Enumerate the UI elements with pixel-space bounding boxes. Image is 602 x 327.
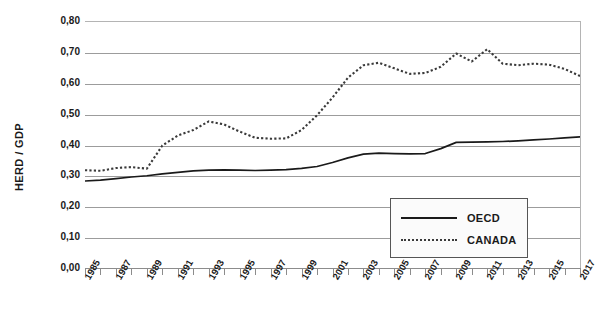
x-axis-tick bbox=[100, 269, 101, 275]
x-axis-tick bbox=[379, 269, 380, 275]
x-axis-tick bbox=[255, 269, 256, 275]
x-axis-tick bbox=[565, 269, 566, 275]
y-axis-tick-label: 0,80 bbox=[40, 16, 80, 26]
x-axis-tick bbox=[534, 269, 535, 275]
x-axis-tick bbox=[162, 269, 163, 275]
legend-item-canada: CANADA bbox=[401, 231, 516, 249]
y-axis-tick-label: 0,10 bbox=[40, 232, 80, 242]
legend-label-canada: CANADA bbox=[467, 234, 516, 246]
legend-swatch-solid-icon bbox=[401, 212, 457, 224]
x-axis-tick bbox=[503, 269, 504, 275]
y-axis-tick-label: 0,60 bbox=[40, 78, 80, 88]
y-axis-tick-label: 0,40 bbox=[40, 140, 80, 150]
legend-label-oecd: OECD bbox=[467, 212, 500, 224]
x-axis-tick bbox=[348, 269, 349, 275]
y-axis-tick-label: 0,50 bbox=[40, 109, 80, 119]
y-axis-tick-label: 0,70 bbox=[40, 47, 80, 57]
legend-box: OECD CANADA bbox=[390, 198, 528, 258]
x-axis-tick bbox=[472, 269, 473, 275]
x-axis-tick bbox=[410, 269, 411, 275]
x-axis-tick bbox=[286, 269, 287, 275]
x-axis-tick bbox=[224, 269, 225, 275]
legend-swatch-dotted-icon bbox=[401, 234, 457, 246]
x-axis-tick bbox=[317, 269, 318, 275]
herd-gdp-line-chart: HERD / GDP 0,000,100,200,300,400,500,600… bbox=[0, 0, 602, 327]
y-axis-title-text: HERD / GDP bbox=[13, 123, 25, 191]
y-axis-tick-labels: 0,000,100,200,300,400,500,600,700,80 bbox=[38, 0, 80, 327]
x-axis-tick bbox=[441, 269, 442, 275]
y-axis-title: HERD / GDP bbox=[2, 92, 36, 222]
y-axis-tick-label: 0,30 bbox=[40, 170, 80, 180]
x-axis-tick-labels: 1985198719891991199319951997199920012003… bbox=[85, 276, 595, 324]
x-axis-tick bbox=[131, 269, 132, 275]
y-axis-tick-label: 0,20 bbox=[40, 201, 80, 211]
y-axis-tick-label: 0,00 bbox=[40, 263, 80, 273]
legend-item-oecd: OECD bbox=[401, 209, 500, 227]
x-axis-tick bbox=[193, 269, 194, 275]
